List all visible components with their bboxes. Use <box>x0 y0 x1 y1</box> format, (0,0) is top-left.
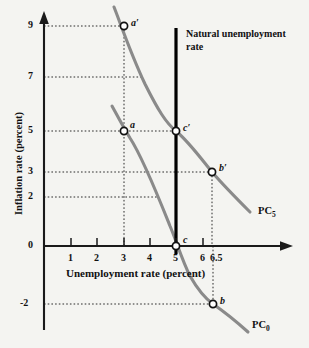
marker-b <box>209 300 216 307</box>
curve-pc0 <box>112 106 248 332</box>
marker-b-prime <box>208 168 215 175</box>
point-label-a-prime: a′ <box>131 17 139 28</box>
curve-label-pc5: PC5 <box>258 205 276 219</box>
natural-rate-annotation-line1: Natural unemployment <box>186 28 286 41</box>
y-tick-label-9: 9 <box>28 19 33 30</box>
y-tick-label-3: 3 <box>28 165 33 176</box>
marker-a <box>120 127 127 134</box>
curve-label-pc5-sub: 5 <box>272 210 276 219</box>
curve-label-pc5-text: PC <box>258 205 272 216</box>
natural-rate-annotation: Natural unemployment rate <box>186 28 286 53</box>
curve-label-pc0-sub: 0 <box>266 324 270 333</box>
point-label-b: b <box>220 295 225 306</box>
y-tick-label-7: 7 <box>28 70 33 81</box>
phillips-curve-figure: 9 7 5 3 2 0 -2 1 2 3 4 5 6 6.5 Unemploym… <box>0 0 309 348</box>
y-axis-arrow <box>39 11 49 24</box>
x-axis-arrow <box>280 241 293 251</box>
y-axis-title: Inflation rate (percent) <box>13 94 24 234</box>
natural-rate-annotation-line2: rate <box>186 41 286 54</box>
x-tick-label-2: 2 <box>94 252 99 263</box>
x-tick-label-1: 1 <box>68 252 73 263</box>
marker-c <box>172 242 179 249</box>
x-tick-label-6point5: 6.5 <box>210 252 223 263</box>
marker-a-prime <box>120 22 127 29</box>
x-tick-label-4: 4 <box>147 252 152 263</box>
curve-label-pc0-text: PC <box>252 319 266 330</box>
point-label-b-prime: b′ <box>219 162 227 173</box>
y-tick-label-neg2: -2 <box>20 297 28 308</box>
data-point-markers <box>120 22 216 307</box>
x-tick-label-3: 3 <box>121 252 126 263</box>
y-tick-label-5: 5 <box>28 124 33 135</box>
x-tick-label-5: 5 <box>173 252 178 263</box>
point-label-c: c <box>183 234 187 245</box>
curve-label-pc0: PC0 <box>252 319 270 333</box>
point-label-a: a <box>130 119 135 130</box>
x-tick-label-6: 6 <box>200 252 205 263</box>
y-tick-label-2: 2 <box>28 190 33 201</box>
x-axis-title: Unemployment rate (percent) <box>66 267 205 279</box>
y-tick-label-0: 0 <box>28 239 33 250</box>
marker-c-prime <box>172 127 179 134</box>
point-label-c-prime: c′ <box>183 122 190 133</box>
